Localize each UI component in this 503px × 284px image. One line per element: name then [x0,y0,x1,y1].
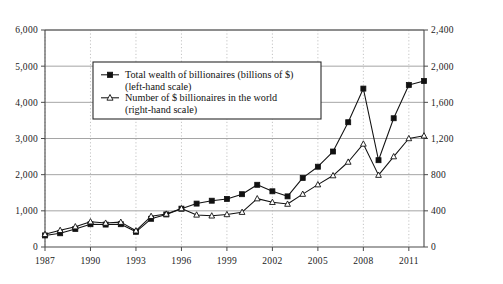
series-number-of-billionaires [42,133,427,237]
svg-text:2,400: 2,400 [431,25,454,35]
chart-container: 01,0002,0003,0004,0005,0006,000 04008001… [0,0,503,284]
svg-text:1,200: 1,200 [431,134,454,144]
legend-entry-label: Number of $ billionaires in the world [125,92,277,103]
svg-text:2008: 2008 [353,256,373,266]
svg-text:2,000: 2,000 [15,170,38,180]
left-axis-tick-labels: 01,0002,0003,0004,0005,0006,000 [15,25,38,252]
svg-text:0: 0 [33,242,38,252]
right-axis-tick-labels: 04008001,2001,6002,0002,400 [431,25,454,252]
svg-text:800: 800 [431,170,446,180]
x-axis-tick-labels: 198719901993199619992002200520082011 [35,256,419,266]
svg-text:1,000: 1,000 [15,206,38,216]
svg-text:1996: 1996 [171,256,191,266]
svg-text:6,000: 6,000 [15,25,38,35]
legend-entry-scale-note: (left-hand scale) [125,81,191,93]
chart-legend: Total wealth of billionaires (billions o… [93,62,321,119]
x-axis-ticks [45,247,409,251]
svg-text:5,000: 5,000 [15,62,38,72]
legend-entry-scale-note: (right-hand scale) [125,104,197,116]
billionaires-dual-axis-line-chart: 01,0002,0003,0004,0005,0006,000 04008001… [0,0,503,284]
legend-entry-label: Total wealth of billionaires (billions o… [125,69,293,81]
svg-text:2005: 2005 [308,256,328,266]
figure-caption [0,272,503,284]
right-axis-ticks [424,30,428,247]
svg-text:4,000: 4,000 [15,98,38,108]
svg-text:1987: 1987 [35,256,55,266]
svg-text:2,000: 2,000 [431,62,454,72]
svg-text:2011: 2011 [399,256,419,266]
svg-text:1990: 1990 [80,256,100,266]
svg-text:2002: 2002 [262,256,282,266]
svg-text:0: 0 [431,242,436,252]
svg-text:1,600: 1,600 [431,98,454,108]
left-axis-ticks [41,30,45,247]
horizontal-gridlines [45,30,424,211]
svg-text:1999: 1999 [217,256,237,266]
svg-text:400: 400 [431,206,446,216]
svg-text:1993: 1993 [126,256,146,266]
svg-text:3,000: 3,000 [15,134,38,144]
